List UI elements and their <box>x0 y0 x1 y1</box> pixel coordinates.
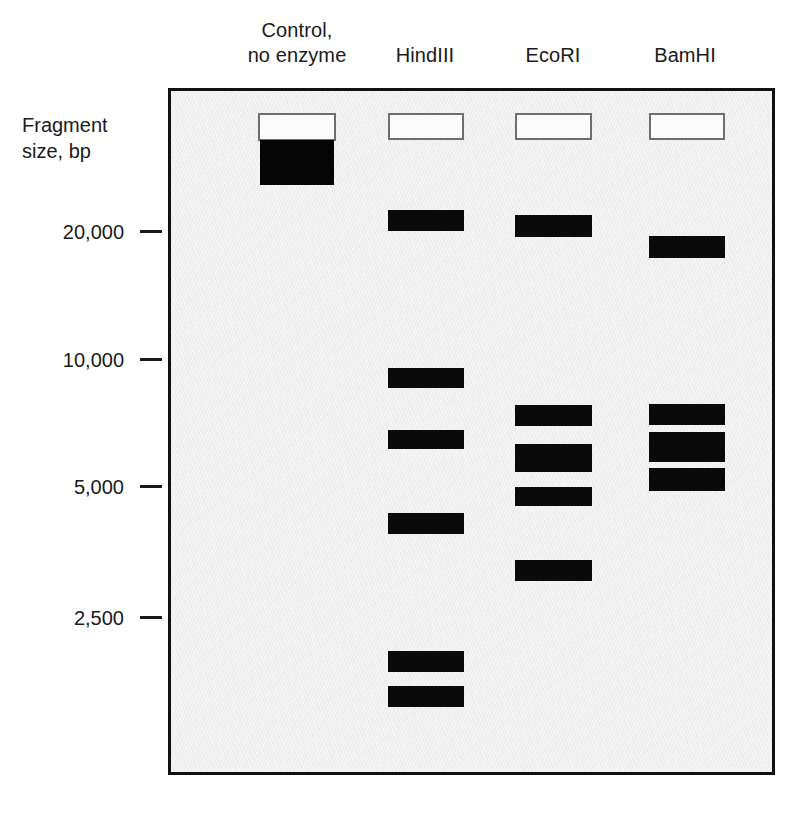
well-control-no-enzyme <box>258 113 336 141</box>
band-bamhi-17000 <box>649 236 725 258</box>
axis-title-fragment-size: Fragment size, bp <box>22 112 162 164</box>
scale-tick-label-5000: 5,000 <box>24 476 124 499</box>
scale-tick-dash-2500 <box>140 616 162 619</box>
band-ecori-5800 <box>515 444 592 472</box>
scale-tick-dash-10000 <box>140 358 162 361</box>
gel-plate <box>168 88 775 775</box>
band-bamhi-5300 <box>649 468 725 491</box>
undigested-dna-smear-control <box>260 140 334 185</box>
band-ecori-7400 <box>515 405 592 426</box>
well-ecori <box>515 113 592 140</box>
band-ecori-21200 <box>515 215 592 237</box>
scale-tick-2500: 2,500 <box>22 606 162 630</box>
scale-tick-label-2500: 2,500 <box>24 607 124 630</box>
band-hindiii-6600 <box>388 430 464 449</box>
band-bamhi-6300 <box>649 432 725 462</box>
lane-header-hindiii: HindIII <box>358 43 492 68</box>
lane-header-bamhi: BamHI <box>622 43 748 68</box>
well-hindiii <box>388 113 464 140</box>
band-hindiii-2300 <box>388 651 464 672</box>
scale-tick-dash-5000 <box>140 485 162 488</box>
band-ecori-4900 <box>515 487 592 506</box>
lane-bamhi[interactable] <box>649 91 725 772</box>
scale-tick-20000: 20,000 <box>22 220 162 244</box>
band-bamhi-7300 <box>649 404 725 425</box>
band-ecori-3500 <box>515 560 592 581</box>
lane-header-ecori: EcoRI <box>490 43 616 68</box>
lane-hindiii[interactable] <box>388 91 464 772</box>
lane-header-control-no-enzyme: Control, no enzyme <box>218 18 376 68</box>
gel-electrophoresis-figure: Control, no enzyme HindIII EcoRI BamHI F… <box>0 0 798 815</box>
lane-ecori[interactable] <box>515 91 592 772</box>
scale-tick-label-20000: 20,000 <box>24 221 124 244</box>
band-hindiii-21000 <box>388 210 464 231</box>
lane-control-no-enzyme[interactable] <box>258 91 336 772</box>
band-hindiii-9400 <box>388 368 464 388</box>
scale-tick-label-10000: 10,000 <box>24 349 124 372</box>
band-hindiii-4400 <box>388 513 464 534</box>
band-hindiii-2000 <box>388 686 464 707</box>
well-bamhi <box>649 113 725 140</box>
scale-tick-5000: 5,000 <box>22 475 162 499</box>
scale-tick-10000: 10,000 <box>22 348 162 372</box>
scale-tick-dash-20000 <box>140 230 162 233</box>
